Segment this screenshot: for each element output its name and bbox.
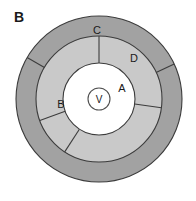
zone-label-a: A <box>118 82 126 94</box>
zone-label-b: B <box>57 98 64 110</box>
ring-diagram: B C B D A V <box>0 0 196 201</box>
figure-panel: B C B D A V <box>0 0 196 201</box>
zone-label-d: D <box>130 52 138 64</box>
zone-label-v: V <box>96 94 103 105</box>
panel-label: B <box>14 9 24 25</box>
zone-label-c: C <box>93 24 101 36</box>
